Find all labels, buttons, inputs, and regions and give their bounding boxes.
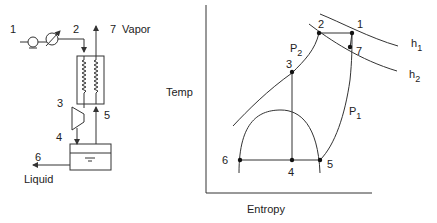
point-label-6: 6 <box>222 154 228 166</box>
state-point-3 <box>290 70 294 74</box>
hx-coil-cold-icon <box>94 56 98 104</box>
heat-exchanger-box <box>77 56 104 104</box>
stream-label-2: 2 <box>73 23 79 35</box>
saturation-dome <box>239 110 320 173</box>
stream-label-6: 6 <box>35 151 41 163</box>
stream-label-4: 4 <box>56 131 62 143</box>
process-schematic <box>20 26 111 170</box>
isobar-label-p2: P2 <box>290 42 302 58</box>
vapor-label: Vapor <box>122 23 151 35</box>
expansion-valve-icon <box>72 107 84 130</box>
liquid-label: Liquid <box>24 173 53 185</box>
point-label-1: 1 <box>357 18 363 30</box>
point-label-7: 7 <box>356 45 362 57</box>
aftercooler-icon <box>46 31 60 46</box>
stream-label-7: 7 <box>110 23 116 35</box>
stream-label-3: 3 <box>57 97 63 109</box>
state-point-5 <box>318 158 322 162</box>
x-axis-label: Entropy <box>247 203 285 215</box>
point-label-2: 2 <box>318 18 324 30</box>
stream-label-5: 5 <box>104 109 110 121</box>
compressor-icon <box>28 37 38 48</box>
stream-2-line <box>58 39 84 52</box>
linde-cycle-figure: 1 2 7 Vapor 3 4 5 6 Liquid <box>0 0 437 223</box>
isenthalp-label-h2: h2 <box>409 68 420 84</box>
isobar-label-p1: P1 <box>349 105 361 121</box>
state-point-1 <box>350 31 354 35</box>
ts-diagram <box>206 5 398 193</box>
stream-label-1: 1 <box>10 23 16 35</box>
separator-vessel <box>70 144 111 170</box>
point-label-5: 5 <box>327 158 333 170</box>
hx-coil-hot-icon <box>82 56 86 104</box>
y-axis-label: Temp <box>166 86 193 98</box>
point-label-3: 3 <box>286 58 292 70</box>
state-point-6 <box>238 158 242 162</box>
point-label-4: 4 <box>288 166 294 178</box>
state-point-2 <box>317 31 321 35</box>
state-point-4 <box>290 158 294 162</box>
isobar-p1 <box>320 35 352 160</box>
isenthalp-label-h1: h1 <box>411 37 422 53</box>
state-point-7 <box>348 45 352 49</box>
isobar-p2 <box>233 33 319 126</box>
